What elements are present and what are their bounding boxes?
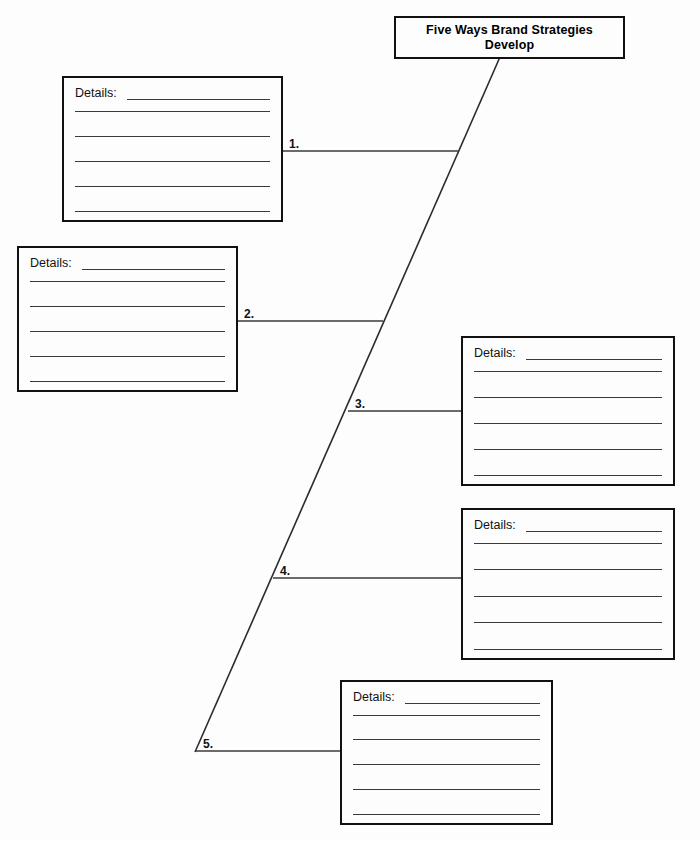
detail-box-3-rule-5[interactable] [474,475,662,476]
detail-box-4-header-rule[interactable] [526,531,662,532]
detail-box-2-header-rule[interactable] [82,269,225,270]
detail-box-4-rule-2[interactable] [474,569,662,570]
detail-box-2-header: Details: [30,257,225,272]
detail-box-1-header: Details: [75,87,270,102]
branch-number-1: 1. [289,138,299,150]
branch-number-2: 2. [244,308,254,320]
detail-box-4-rule-5[interactable] [474,649,662,650]
detail-box-3-rule-4[interactable] [474,449,662,450]
title-box: Five Ways Brand Strategies Develop [394,16,625,59]
detail-box-1-rule-2[interactable] [75,136,270,137]
detail-box-5-label: Details: [353,691,395,706]
branch-number-3: 3. [355,398,365,410]
detail-box-5-header-rule[interactable] [405,703,540,704]
detail-box-2-rule-5[interactable] [30,381,225,382]
detail-box-1-header-rule[interactable] [127,99,270,100]
graphic-organizer-worksheet: Five Ways Brand Strategies Develop 1. 2.… [0,0,700,841]
detail-box-2-rule-3[interactable] [30,331,225,332]
detail-box-5-rule-4[interactable] [353,789,540,790]
detail-box-4-label: Details: [474,519,516,534]
detail-box-3-header-rule[interactable] [526,359,662,360]
detail-box-4-rule-4[interactable] [474,622,662,623]
detail-box-2-rule-2[interactable] [30,306,225,307]
detail-box-1-rule-4[interactable] [75,186,270,187]
detail-box-3-label: Details: [474,347,516,362]
detail-box-2-label: Details: [30,257,72,272]
detail-box-4[interactable]: Details: [461,508,675,660]
detail-box-3-rule-2[interactable] [474,397,662,398]
detail-box-1[interactable]: Details: [62,76,283,222]
detail-box-3-header: Details: [474,347,662,362]
detail-box-5-rule-2[interactable] [353,739,540,740]
detail-box-3-rule-1[interactable] [474,371,662,372]
detail-box-4-rule-1[interactable] [474,543,662,544]
detail-box-5-header: Details: [353,691,540,706]
detail-box-1-label: Details: [75,87,117,102]
detail-box-2[interactable]: Details: [17,246,238,392]
detail-box-5-rule-3[interactable] [353,764,540,765]
branch-number-4: 4. [280,565,290,577]
title-text: Five Ways Brand Strategies Develop [396,23,623,53]
detail-box-1-rule-5[interactable] [75,211,270,212]
detail-box-4-rule-3[interactable] [474,596,662,597]
detail-box-1-rule-1[interactable] [75,111,270,112]
detail-box-2-rule-4[interactable] [30,356,225,357]
detail-box-2-rule-1[interactable] [30,281,225,282]
detail-box-3[interactable]: Details: [461,336,675,486]
detail-box-3-rules [474,362,662,478]
detail-box-1-rules [75,102,270,214]
detail-box-3-rule-3[interactable] [474,423,662,424]
detail-box-5[interactable]: Details: [340,680,553,825]
detail-box-1-rule-3[interactable] [75,161,270,162]
detail-box-4-header: Details: [474,519,662,534]
branch-number-5: 5. [203,738,213,750]
detail-box-5-rule-1[interactable] [353,715,540,716]
detail-box-4-rules [474,534,662,652]
detail-box-5-rules [353,706,540,817]
detail-box-2-rules [30,272,225,384]
detail-box-5-rule-5[interactable] [353,814,540,815]
